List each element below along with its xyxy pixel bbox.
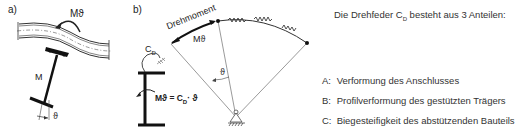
panel-b-moment-label: Mϑ bbox=[193, 34, 205, 44]
item-key: C: bbox=[322, 115, 334, 126]
item-key: A: bbox=[322, 75, 334, 86]
list-item: C: Biegesteifigkeit des abstützenden Bau… bbox=[322, 115, 515, 126]
equation-left: Mϑ = C bbox=[155, 93, 183, 103]
equation: Mϑ = CD· ϑ bbox=[155, 93, 197, 105]
angle-label: ϑ bbox=[220, 67, 225, 77]
item-key: B: bbox=[322, 95, 334, 106]
panel-a-member-label: M bbox=[35, 72, 43, 82]
arc-node-right bbox=[305, 41, 309, 45]
list-item: B: Profilverformung des gestützten Träge… bbox=[322, 95, 506, 106]
spring-coil-1 bbox=[228, 18, 246, 22]
list-item: A: Verformung des Anschlusses bbox=[322, 75, 459, 86]
item-text: Profilverformung des gestützten Trägers bbox=[337, 95, 506, 106]
panel-a-label: a) bbox=[8, 4, 17, 15]
description-title: Die Drehfeder CD besteht aus 3 Anteilen: bbox=[334, 9, 506, 22]
pin-support bbox=[228, 110, 245, 126]
spring-coil-2 bbox=[254, 17, 272, 21]
item-text: Biegesteifigkeit des abstützenden Bautei… bbox=[337, 115, 515, 126]
arc-node-top bbox=[216, 19, 220, 23]
spring-arc bbox=[218, 20, 307, 43]
panel-a-moment-label: Mϑ bbox=[70, 8, 84, 19]
equation-right: · ϑ bbox=[187, 93, 197, 103]
title-pre: Die Drehfeder C bbox=[334, 9, 403, 20]
spring-constant-label: CD bbox=[145, 44, 156, 56]
item-text: Verformung des Anschlusses bbox=[337, 75, 460, 86]
column-web bbox=[44, 55, 57, 104]
rotational-spring-icon bbox=[142, 53, 160, 72]
panel-a-angle-label: ϑ bbox=[53, 111, 58, 121]
panel-b-label: b) bbox=[133, 4, 142, 15]
spring-sub: D bbox=[152, 50, 156, 56]
title-post: besteht aus 3 Anteilen: bbox=[407, 9, 506, 20]
